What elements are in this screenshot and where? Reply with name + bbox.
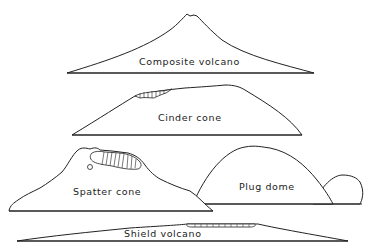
plug-dome-profile bbox=[193, 146, 363, 204]
label-cinder-cone: Cinder cone bbox=[158, 112, 222, 123]
spatter-cone-profile bbox=[9, 148, 213, 211]
cinder-cone-profile bbox=[72, 85, 302, 135]
label-plug-dome: Plug dome bbox=[239, 181, 295, 192]
label-shield-volcano: Shield volcano bbox=[124, 228, 202, 239]
volcano-diagram bbox=[0, 0, 368, 250]
shield-caldera-hatch bbox=[187, 224, 256, 227]
label-composite-volcano: Composite volcano bbox=[139, 56, 240, 67]
label-spatter-cone: Spatter cone bbox=[73, 186, 141, 197]
